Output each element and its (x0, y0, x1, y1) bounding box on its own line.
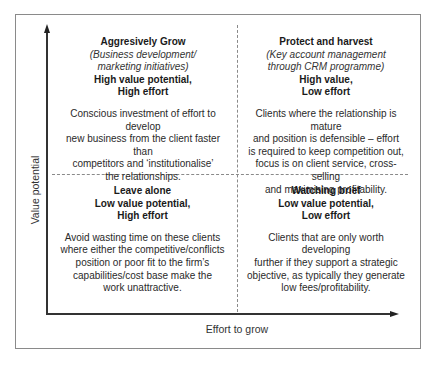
quadrant-meta: High effort (60, 210, 225, 223)
arrow-up-icon (44, 24, 50, 33)
quadrant-description: Clients that are only worth developing f… (243, 232, 409, 295)
description-line: the relationships. (55, 171, 231, 184)
quadrant-aggressively-grow: Aggresively Grow (Business development/ … (55, 36, 231, 184)
quadrant-subtitle: (Business development/ (55, 49, 231, 62)
arrow-right-icon (390, 311, 399, 317)
description-line: focus is on client service, cross-sellin… (243, 158, 409, 183)
quadrant-meta: Low value potential, (243, 198, 409, 211)
description-line: low fees/profitability. (243, 282, 409, 295)
quadrant-title: Protect and harvest (243, 36, 409, 49)
description-line: new business from the client faster than (55, 133, 231, 158)
quadrant-meta: Low value potential, (60, 198, 225, 211)
description-line: Clients where the relationship is mature (243, 108, 409, 133)
quadrant-watching-brief: Watching brief Low value potential, Low … (243, 185, 409, 295)
quadrant-description: Clients where the relationship is mature… (243, 108, 409, 196)
description-line: and position is defensible – effort (243, 133, 409, 146)
description-line: objective, as typically they generate (243, 270, 409, 283)
x-axis-line (46, 313, 392, 315)
quadrant-leave-alone: Leave alone Low value potential, High ef… (60, 185, 225, 295)
quadrant-subtitle: (Key account management (243, 49, 409, 62)
y-axis-line (46, 30, 48, 314)
description-line: capabilities/cost base make the (60, 270, 225, 283)
description-line: further if they support a strategic (243, 257, 409, 270)
quadrant-description: Avoid wasting time on these clients wher… (60, 232, 225, 295)
y-axis-label: Value potential (29, 156, 41, 225)
quadrant-title: Aggresively Grow (55, 36, 231, 49)
quadrant-meta: Low effort (243, 86, 409, 99)
description-line: where either the competitive/conflicts (60, 244, 225, 257)
description-line: work unattractive. (60, 282, 225, 295)
description-line: Conscious investment of effort to develo… (55, 108, 231, 133)
quadrant-title: Leave alone (60, 185, 225, 198)
description-line: position or poor fit to the firm’s (60, 257, 225, 270)
quadrant-meta: High effort (55, 86, 231, 99)
quadrant-subtitle: through CRM programme) (243, 61, 409, 74)
quadrant-description: Conscious investment of effort to develo… (55, 108, 231, 184)
description-line: Avoid wasting time on these clients (60, 232, 225, 245)
quadrant-meta: High value potential, (55, 74, 231, 87)
quadrant-title: Watching brief (243, 185, 409, 198)
quadrant-subtitle: marketing initiatives) (55, 61, 231, 74)
quadrant-meta: High value, (243, 74, 409, 87)
description-line: is required to keep competition out, (243, 146, 409, 159)
description-line: Clients that are only worth developing (243, 232, 409, 257)
quadrant-meta: Low effort (243, 210, 409, 223)
quadrant-protect-and-harvest: Protect and harvest (Key account managem… (243, 36, 409, 196)
description-line: competitors and ‘institutionalise’ (55, 158, 231, 171)
x-axis-label: Effort to grow (206, 323, 268, 335)
vertical-divider (237, 25, 238, 312)
